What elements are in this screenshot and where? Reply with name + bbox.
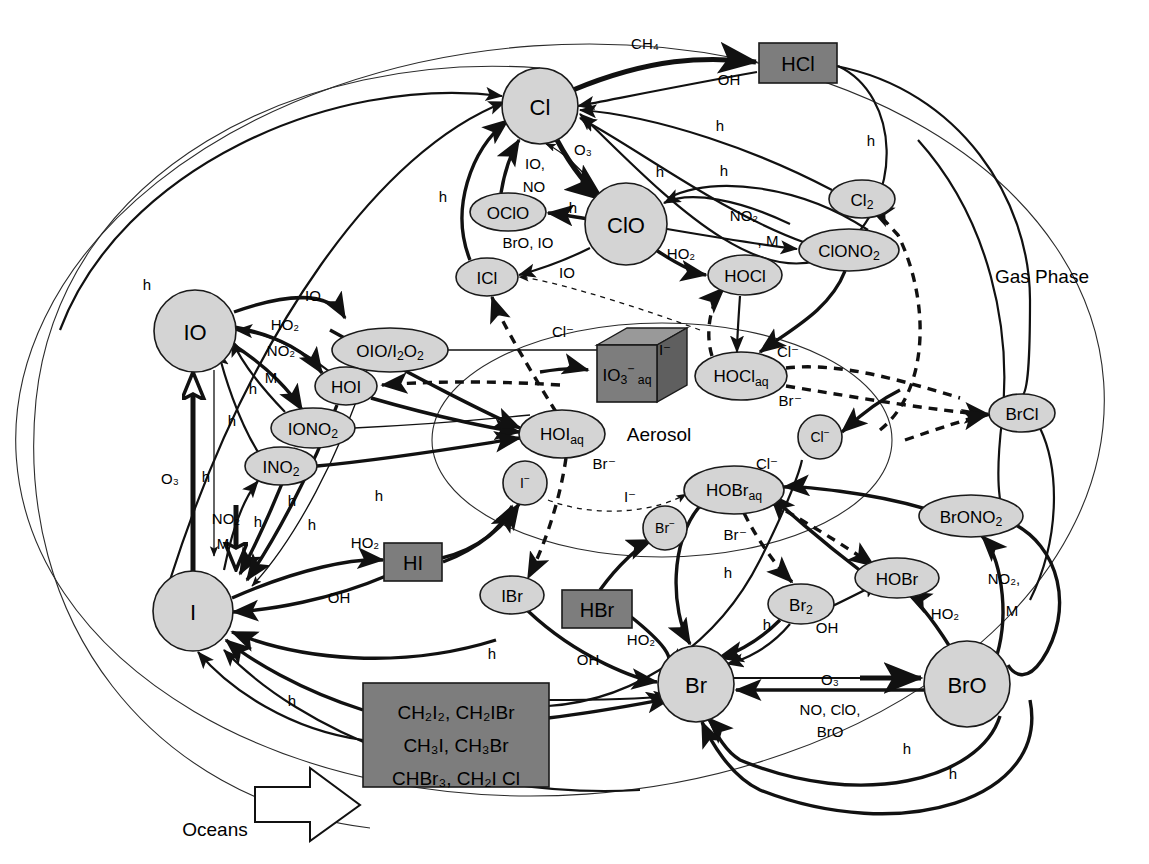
edge-label-h_io_2: h [228,412,236,429]
edge-labels: CH₄OHhhO₃IO,NOhBrO, IOIOhhNO₂, MHO₂Cl⁻I⁻… [143,35,1020,782]
gas-phase-label: Gas Phase [995,266,1089,287]
node-IO3-aq[interactable]: IO3− aq [597,328,687,402]
node-label-BrCl: BrCl [1005,405,1038,424]
node-label-HOBr: HOBr [876,570,919,589]
edge-label-h_i_1: h [254,513,262,530]
oceans-block-arrow-icon [255,768,360,841]
node-label-Cl: Cl [530,95,551,120]
edge-label-h_bot_2: h [949,765,957,782]
edge-label-br_minus_1: Br⁻ [779,392,802,409]
edge-label-no2_clono2: NO₂ [730,207,759,224]
edge-hi-right-tail [442,506,512,558]
source-line-3: CHBr₃, CH₂I Cl [392,768,520,789]
edge-label-no2_brono2: NO₂, [988,570,1021,587]
edge-label-h_io_3: h [202,468,210,485]
edge-hobr-to-hobraq [770,494,862,572]
edge-label-i_minus_1: I⁻ [659,341,671,358]
node-label-ICl: ICl [477,269,498,288]
edge-label-oh_br2: OH [816,619,839,636]
edge-label-br_minus_2: Br⁻ [593,455,616,472]
edge-hoi-to-hoiaq [371,398,520,432]
edge-label-ch4: CH₄ [631,35,659,52]
node-label-IONO2: IONO2 [288,420,338,442]
edge-i-to-hi-ho2 [232,560,383,598]
edge-label-ho2_hocl: HO₂ [667,245,696,262]
edge-label-io_icl: IO [559,264,575,281]
edge-label-h_cl_1: h [716,117,724,134]
edge-brono2-to-hobraq [784,487,926,509]
edge-label-h_upper: h [439,188,447,205]
edge-brcl-down [1030,428,1054,600]
edge-label-h_i_4: h [375,487,383,504]
edge-label-cl_minus_1: Cl⁻ [552,323,574,340]
edge-label-o3_io: O₃ [161,470,179,487]
edge-label-h_br_oh: h [763,616,771,633]
edge-clo-to-icl [519,248,590,275]
edge-label-h_i_2: h [288,492,296,509]
edge-label-no2_i: NO₂ [212,510,241,527]
edge-low-arc-ibr-to-i [232,632,496,658]
edge-label-i_minus_2: I⁻ [624,488,636,505]
node-label-Br: Br [685,673,707,698]
edge-label-io_no: IO, [525,155,545,172]
node-label-HOCl: HOCl [724,267,766,286]
edge-label-br_minus_3: Br⁻ [724,526,747,543]
edge-to-io3aq [540,369,588,372]
edge-label-h_clo_1: h [656,163,664,180]
edge-label-m_iono2: M [265,369,278,386]
node-label-BrONO2: BrONO2 [940,508,1003,530]
edge-label-oh_i: OH [328,589,351,606]
node-label-OIO-I2O2: OIO/I2O2 [356,342,424,364]
edge-label-ho2_hoi: HO₂ [271,316,300,333]
edge-label-h_far_left: h [143,276,151,293]
edge-label-cl_minus_2: Cl⁻ [777,343,799,360]
edge-label-bro_rev: BrO [817,723,844,740]
edge-label-h_i_3: h [308,516,316,533]
node-label-HOI: HOI [331,378,361,397]
halogen-chemistry-diagram: Cl ClO OClO ICl HCl Cl2 ClONO2 HOCl HOCl [0,0,1149,864]
edge-io-dashed-to-icl [519,277,700,330]
edge-gas-right-curve-2 [918,140,1004,500]
edge-label-m_clono2: , M [758,232,779,249]
edge-hoclaq-to-hocl-dashed [709,288,724,356]
edge-label-ho2_hi: HO₂ [351,534,380,551]
edge-dashed-to-hoi [382,382,560,385]
node-label-ClONO2: ClONO2 [818,242,880,264]
edge-label-bro_io: BrO, IO [503,234,554,251]
edge-label-oh_cl: OH [718,71,741,88]
edge-label-no2_iono2: NO₂ [267,342,296,359]
node-label-IBr: IBr [501,587,523,606]
edge-dashed-to-brcl [905,414,988,440]
edge-oclo-to-cl [501,140,519,193]
diagram-canvas: Cl ClO OClO ICl HCl Cl2 ClONO2 HOCl HOCl [0,0,1149,864]
oceans-label: Oceans [182,819,247,840]
edge-label-cl_minus_3: Cl⁻ [756,455,778,472]
edge-bro-to-brono2 [982,536,1003,655]
node-label-IO: IO [183,320,206,345]
edge-hoclaq-br-minus-dashed [786,386,990,415]
edge-hocl-to-hoclaq [737,296,740,352]
edge-br2-to-br-oh [727,624,790,664]
edge-label-h_br2: h [724,564,732,581]
edge-label-h_ibr: h [488,645,496,662]
edge-hbr-to-br-minus [600,540,652,590]
node-label-HCl: HCl [781,53,814,75]
edge-label-h_oclo: h [569,199,577,216]
edge-ino2-to-hoiaq [317,438,520,466]
edge-label-h_io_1: h [249,380,257,397]
oceans-arrow-group: Oceans [182,768,360,841]
aerosol-label: Aerosol [627,424,691,445]
edge-label-ho2_hobr: HO₂ [931,605,960,622]
source-line-1: CH₂I₂, CH₂IBr [397,702,515,723]
edge-label-oh_hbr: OH [577,651,600,668]
edge-label-m_brono2: M [1006,602,1019,619]
edge-aerosol-dashed-to-icl [492,297,556,412]
edge-label-h_bot_1: h [903,740,911,757]
node-label-ClO: ClO [607,213,645,238]
node-label-HBr: HBr [580,599,615,621]
edge-label-h_cl_2: h [867,132,875,149]
edge-organics-to-br-thin [548,696,670,700]
edge-label-m_i: M [217,535,230,552]
edge-label-o3_cl: O₃ [574,141,592,158]
edge-outer-left-to-cl-h [60,93,502,330]
